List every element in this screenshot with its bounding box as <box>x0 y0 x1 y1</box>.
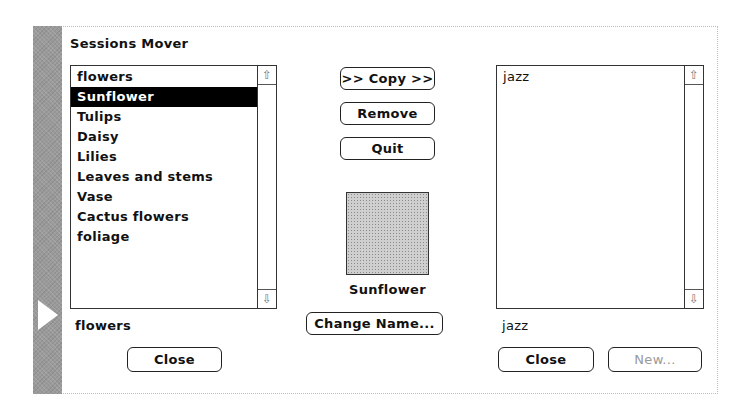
left-list-scrollbar[interactable]: ⇧ ⇩ <box>257 66 276 308</box>
right-list-items: jazz <box>497 67 684 87</box>
list-item[interactable]: Cactus flowers <box>71 207 257 227</box>
scroll-down-arrow-icon[interactable]: ⇩ <box>685 289 703 308</box>
preview-name-label: Sunflower <box>346 282 429 297</box>
left-session-list[interactable]: flowers Sunflower Tulips Daisy Lilies Le… <box>70 65 277 309</box>
copy-button[interactable]: >> Copy >> <box>340 67 435 90</box>
right-session-list[interactable]: jazz ⇧ ⇩ <box>496 65 704 309</box>
window-side-strip <box>33 26 62 394</box>
left-current-name: flowers <box>75 318 131 333</box>
quit-button[interactable]: Quit <box>340 137 435 160</box>
scroll-up-arrow-icon[interactable]: ⇧ <box>685 66 703 85</box>
left-close-button[interactable]: Close <box>127 347 222 372</box>
new-button[interactable]: New... <box>608 347 702 372</box>
remove-button[interactable]: Remove <box>340 102 435 125</box>
change-name-button[interactable]: Change Name... <box>306 312 443 335</box>
list-item[interactable]: Tulips <box>71 107 257 127</box>
list-item[interactable]: Vase <box>71 187 257 207</box>
play-triangle-icon[interactable] <box>38 300 58 330</box>
scroll-up-arrow-icon[interactable]: ⇧ <box>258 66 276 85</box>
list-item[interactable]: Lilies <box>71 147 257 167</box>
left-list-items: flowers Sunflower Tulips Daisy Lilies Le… <box>71 67 257 247</box>
dialog-title: Sessions Mover <box>70 36 188 51</box>
right-current-name: jazz <box>502 318 528 333</box>
list-item[interactable]: Daisy <box>71 127 257 147</box>
list-item[interactable]: jazz <box>497 67 684 87</box>
right-close-button[interactable]: Close <box>498 347 594 372</box>
list-item[interactable]: foliage <box>71 227 257 247</box>
right-list-scrollbar[interactable]: ⇧ ⇩ <box>684 66 703 308</box>
session-preview-swatch <box>346 192 429 275</box>
scroll-down-arrow-icon[interactable]: ⇩ <box>258 289 276 308</box>
list-item[interactable]: flowers <box>71 67 257 87</box>
list-item-selected[interactable]: Sunflower <box>71 87 257 107</box>
list-item[interactable]: Leaves and stems <box>71 167 257 187</box>
